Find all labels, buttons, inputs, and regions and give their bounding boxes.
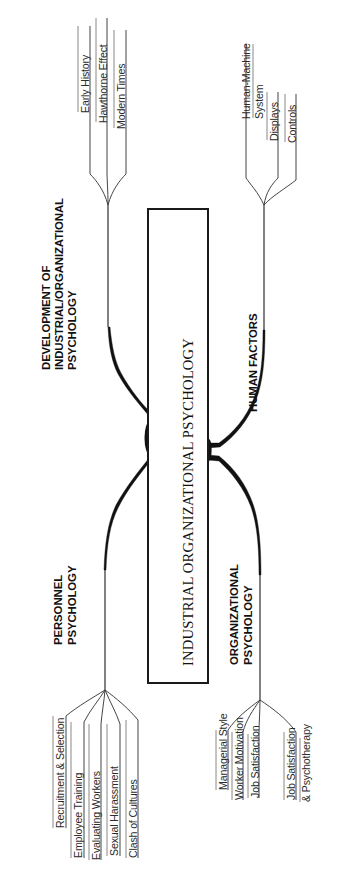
branch-label-organizational-line2: PSYCHOLOGY — [242, 586, 254, 665]
sublabel-employee-training[interactable]: Employee Training — [73, 773, 84, 858]
sublabel-hawthorne-effect[interactable]: Hawthorne Effect — [98, 44, 109, 123]
center-node-box[interactable]: INDUSTRIAL ORGANIZATIONAL PSYCHOLOGY — [147, 208, 209, 684]
sublabel-displays[interactable]: Displays — [269, 102, 280, 141]
branch-stem-development — [108, 205, 152, 427]
sublabel-recruitment-selection[interactable]: Recruitment & Selection — [55, 718, 66, 828]
sublabel-sexual-harassment[interactable]: Sexual Harassment — [109, 766, 120, 856]
branch-label-personnel-line1: PERSONNEL — [52, 575, 64, 645]
sublabel-job-satisfaction[interactable]: Job Satisfaction — [250, 726, 261, 798]
sublabel-job-satisfaction-psychotherapy-line2[interactable]: & Psychotherapy — [301, 724, 312, 802]
branch-label-development-line2: INDUSTRIAL/ORGANIZATIONAL — [53, 198, 65, 370]
branch-label-development-line3: PSYCHOLOGY — [66, 291, 78, 370]
branch-label-human-factors-line1: HUMAN FACTORS — [247, 314, 259, 412]
sublabel-human-machine-system-line1[interactable]: Human-Machine — [241, 43, 252, 119]
center-node-title: INDUSTRIAL ORGANIZATIONAL PSYCHOLOGY — [181, 338, 197, 666]
sublabel-human-machine-system-line2[interactable]: System — [254, 85, 265, 119]
sublabel-clash-of-cultures[interactable]: Clash of Cultures — [128, 779, 139, 858]
sublabel-early-history[interactable]: Early History — [80, 55, 91, 113]
branch-label-development-line1: DEVELOPMENT OF — [40, 266, 52, 370]
branch-stem-personnel — [104, 449, 151, 690]
sublabel-modern-times[interactable]: Modern Times — [116, 64, 127, 129]
sublabel-evaluating-workers[interactable]: Evaluating Workers — [91, 771, 102, 860]
sublabel-job-satisfaction-psychotherapy-line1[interactable]: Job Satisfaction — [286, 728, 297, 800]
sublabel-managerial-style[interactable]: Managerial Style — [218, 713, 229, 790]
branch-label-organizational-line1: ORGANIZATIONAL — [228, 564, 240, 665]
sublabel-worker-motivation[interactable]: Worker Motivation — [234, 717, 245, 800]
sublabel-controls[interactable]: Controls — [287, 105, 298, 143]
branch-label-personnel-line2: PSYCHOLOGY — [66, 566, 78, 645]
mind-map-diagram: INDUSTRIAL ORGANIZATIONAL PSYCHOLOGY DEV… — [0, 0, 343, 887]
